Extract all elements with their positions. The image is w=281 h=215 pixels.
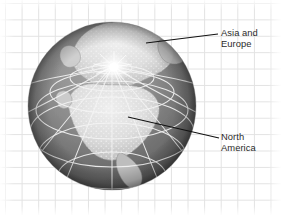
leader-line-north-america — [128, 117, 219, 138]
globe-figure: Asia and Europe North America — [0, 0, 281, 215]
callout-label-asia-and-europe: Asia and Europe — [221, 27, 258, 50]
callout-label-north-america: North America — [221, 131, 256, 154]
leader-line-asia-and-europe — [146, 34, 218, 43]
